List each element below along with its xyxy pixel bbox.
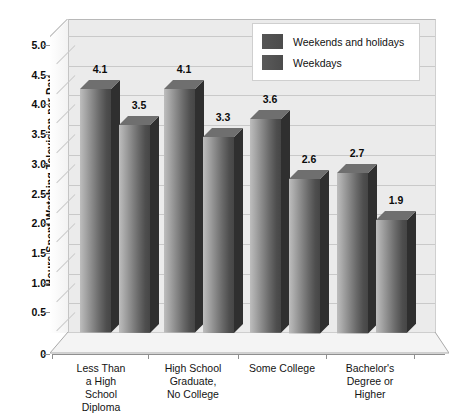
x-tick-mark	[414, 354, 415, 359]
bar-front-face	[203, 137, 234, 333]
bar	[80, 80, 120, 333]
bar	[203, 128, 243, 333]
y-tick-mark	[43, 194, 50, 195]
x-axis-category-label-line: School	[56, 388, 146, 401]
y-tick-label: 1.0	[16, 277, 46, 289]
bar	[337, 164, 377, 333]
x-axis-category-label-line: Degree or	[325, 375, 415, 388]
legend-item[interactable]: Weekdays	[262, 52, 411, 73]
bar-value-label: 4.1	[177, 63, 192, 75]
x-axis-category-label-line: Graduate,	[148, 375, 238, 388]
legend-item-label: Weekends and holidays	[293, 36, 404, 48]
gridline	[68, 95, 435, 96]
bar-side-face	[320, 170, 329, 333]
bar-front-face	[289, 179, 320, 333]
bar	[376, 211, 416, 333]
y-tick-mark	[43, 253, 50, 254]
bar-side-face	[234, 128, 243, 333]
x-tick-mark	[52, 354, 53, 359]
y-tick-label: 3.5	[16, 128, 46, 140]
bar-side-face	[407, 211, 416, 333]
x-axis-category-label-line: Diploma	[56, 401, 146, 414]
x-axis-category-label: Some College	[237, 362, 327, 375]
bar-value-label: 2.6	[302, 153, 317, 165]
bar	[250, 110, 290, 333]
plot-floor	[50, 333, 449, 355]
legend-swatch-icon	[262, 34, 283, 49]
x-axis-category-label-line: High School	[148, 362, 238, 375]
y-tick-mark	[43, 354, 50, 355]
legend: Weekends and holidays Weekdays	[252, 23, 420, 81]
bar-front-face	[376, 220, 407, 333]
legend-item-label: Weekdays	[293, 57, 342, 69]
x-tick-mark	[326, 354, 327, 359]
y-tick-label: 0	[16, 348, 46, 360]
bar	[289, 170, 329, 333]
y-tick-mark	[43, 283, 50, 284]
y-tick-label: 4.5	[16, 69, 46, 81]
bar-front-face	[250, 119, 281, 333]
y-tick-mark	[43, 104, 50, 105]
bar-value-label: 1.9	[389, 194, 404, 206]
x-axis-category-label: Less Thana HighSchoolDiploma	[56, 362, 146, 414]
bar	[164, 80, 204, 333]
y-tick-label: 3.0	[16, 158, 46, 170]
y-tick-label: 4.0	[16, 98, 46, 110]
legend-item[interactable]: Weekends and holidays	[262, 31, 411, 52]
x-axis-category-label: High SchoolGraduate,No College	[148, 362, 238, 401]
x-axis-line	[52, 354, 445, 355]
x-axis-category-label-line: Less Than	[56, 362, 146, 375]
y-tick-mark	[43, 223, 50, 224]
legend-swatch-icon	[262, 55, 283, 70]
plot-left-bevel	[50, 19, 69, 333]
x-axis-category-label-line: Higher	[325, 388, 415, 401]
x-axis-category-label-line: a High	[56, 375, 146, 388]
bar-value-label: 4.1	[93, 63, 108, 75]
x-axis-category-label: Bachelor'sDegree orHigher	[325, 362, 415, 401]
bar-front-face	[119, 125, 150, 333]
x-tick-mark	[238, 354, 239, 359]
bar-front-face	[164, 89, 195, 333]
y-tick-label: 2.5	[16, 188, 46, 200]
y-tick-mark	[43, 164, 50, 165]
bar	[119, 116, 159, 333]
x-axis-category-label-line: Bachelor's	[325, 362, 415, 375]
bar-side-face	[150, 116, 159, 333]
x-axis-category-label-line: No College	[148, 388, 238, 401]
y-tick-label: 2.0	[16, 217, 46, 229]
bar-value-label: 2.7	[350, 147, 365, 159]
y-tick-label: 1.5	[16, 247, 46, 259]
y-tick-mark	[43, 312, 50, 313]
x-tick-mark	[148, 354, 149, 359]
y-tick-label: 5.0	[16, 39, 46, 51]
bar-front-face	[337, 173, 368, 333]
y-axis-ticks: 00.51.01.52.02.53.03.54.04.55.0	[10, 0, 46, 409]
y-tick-mark	[43, 134, 50, 135]
y-tick-label: 0.5	[16, 306, 46, 318]
y-tick-mark	[43, 75, 50, 76]
x-axis-category-label-line: Some College	[237, 362, 327, 375]
plot-bevel-edge	[50, 19, 69, 38]
bar-value-label: 3.3	[216, 111, 231, 123]
bar-value-label: 3.6	[263, 93, 278, 105]
y-tick-mark	[43, 45, 50, 46]
bar-front-face	[80, 89, 111, 333]
bar-value-label: 3.5	[132, 99, 147, 111]
